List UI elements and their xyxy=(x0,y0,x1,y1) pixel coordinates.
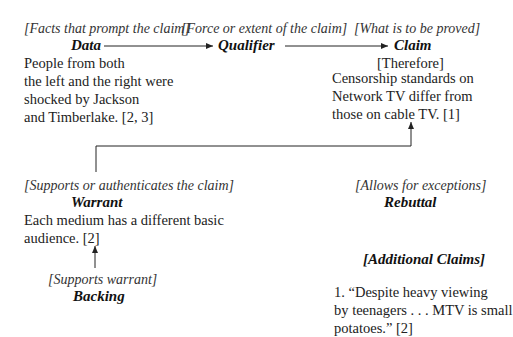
additional-claim-line: potatoes.” [2] xyxy=(334,319,513,337)
backing-note: [Supports warrant] xyxy=(48,272,157,288)
claim-note: [What is to be proved] xyxy=(354,21,480,37)
additional-claim-line: by teenagers . . . MTV is small xyxy=(334,301,513,319)
warrant-text: Each medium has a different basic audien… xyxy=(24,211,224,247)
warrant-note: [Supports or authenticates the claim] xyxy=(24,178,234,194)
claim-line: Network TV differ from xyxy=(332,87,474,105)
warrant-heading: Warrant xyxy=(71,194,122,211)
data-text: People from both the left and the right … xyxy=(24,54,173,126)
qualifier-heading: Qualifier xyxy=(218,37,275,54)
claim-line: those on cable TV. [1] xyxy=(332,105,474,123)
rebuttal-note: [Allows for exceptions] xyxy=(355,178,486,194)
claim-line: Censorship standards on xyxy=(332,69,474,87)
data-note: [Facts that prompt the claim] xyxy=(24,21,190,37)
warrant-line: audience. [2] xyxy=(24,229,224,247)
claim-heading: Claim xyxy=(394,37,432,54)
warrant-line: Each medium has a different basic xyxy=(24,211,224,229)
data-line: shocked by Jackson xyxy=(24,90,173,108)
additional-claim-line: 1. “Despite heavy viewing xyxy=(334,283,513,301)
data-line: People from both xyxy=(24,54,173,72)
claim-text: Censorship standards on Network TV diffe… xyxy=(332,69,474,123)
additional-claims-heading: [Additional Claims] xyxy=(363,251,485,268)
backing-heading: Backing xyxy=(73,288,125,305)
data-line: the left and the right were xyxy=(24,72,173,90)
data-heading: Data xyxy=(71,37,101,54)
qualifier-note: [Force or extent of the claim] xyxy=(181,21,347,37)
rebuttal-heading: Rebuttal xyxy=(384,194,437,211)
data-line: and Timberlake. [2, 3] xyxy=(24,108,173,126)
additional-claims-text: 1. “Despite heavy viewing by teenagers .… xyxy=(334,283,513,337)
